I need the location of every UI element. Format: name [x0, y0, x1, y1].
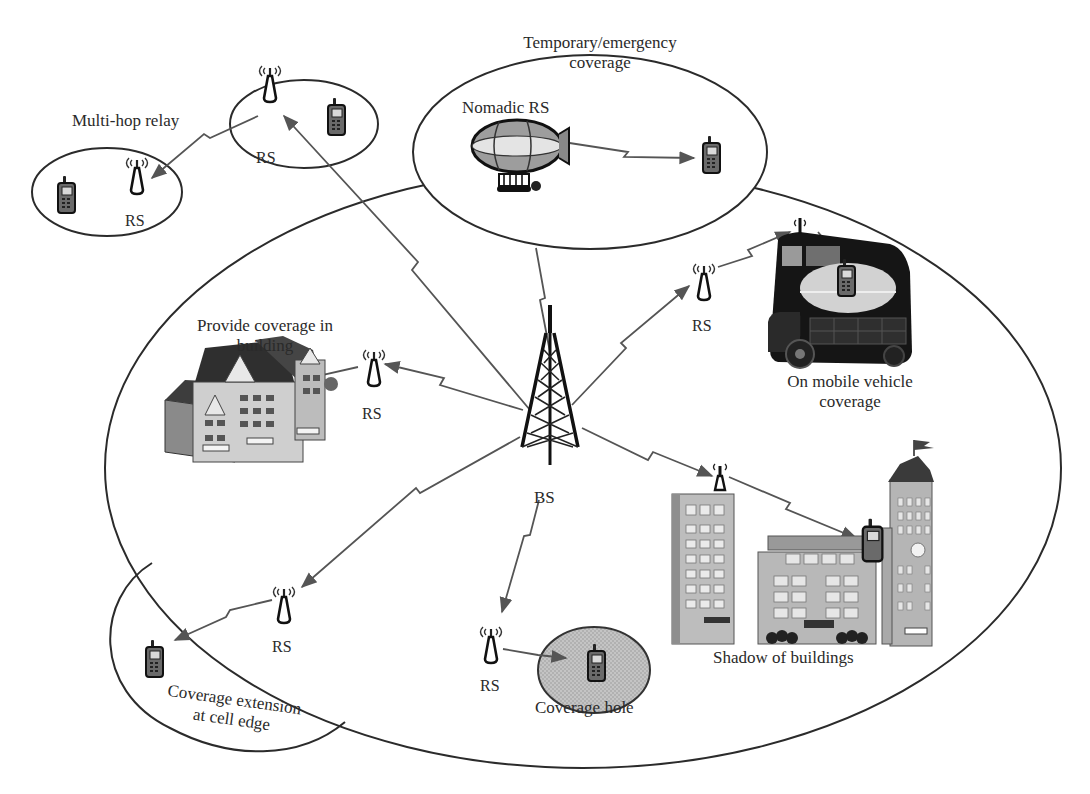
shadow-of-buildings-label: Shadow of buildings	[713, 648, 854, 668]
multi-hop-relay-label: Multi-hop relay	[72, 111, 179, 131]
building-coverage-label: Provide coverage in building	[180, 316, 350, 356]
mobile-phone-icon	[328, 98, 345, 135]
mobile-phone-icon	[58, 176, 75, 213]
multihop-lower-ellipse	[32, 148, 182, 236]
temporary-coverage-label: Temporary/emergency coverage	[500, 33, 700, 73]
nomadic-rs-label: Nomadic RS	[462, 98, 549, 118]
relay-antenna-icon	[364, 350, 385, 386]
relay-antenna-icon	[714, 464, 727, 490]
rs-label: RS	[125, 211, 145, 231]
multihop-upper-ellipse	[230, 80, 378, 168]
office-buildings-icon	[672, 440, 934, 646]
mobile-phone-icon	[863, 519, 883, 562]
coverage-hole-label: Coverage hole	[535, 698, 634, 718]
cell-tower-icon	[522, 305, 578, 465]
rs-label: RS	[256, 148, 276, 168]
relay-antenna-icon	[481, 627, 502, 663]
relay-antenna-icon	[260, 66, 281, 102]
vehicle-coverage-label: On mobile vehicle coverage	[770, 372, 930, 412]
rs-label: RS	[362, 404, 382, 424]
relay-network-diagram: Multi-hop relay RS RS Temporary/emergenc…	[0, 0, 1090, 794]
rs-label: RS	[692, 316, 712, 336]
relay-antenna-icon	[694, 264, 715, 300]
relay-antenna-icon	[127, 158, 148, 194]
mobile-phone-icon	[146, 640, 163, 677]
rs-label: RS	[480, 676, 500, 696]
bs-label: BS	[534, 488, 555, 508]
bus-icon	[768, 232, 912, 368]
relay-antenna-icon	[274, 587, 295, 623]
rs-label: RS	[272, 637, 292, 657]
